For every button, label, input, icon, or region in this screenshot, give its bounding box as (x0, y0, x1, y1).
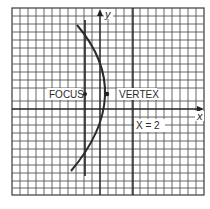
vertex-point (105, 92, 109, 96)
focus-label: FOCUS (49, 89, 84, 100)
vertex-label: VERTEX (119, 89, 159, 100)
x-axis-label: x (196, 110, 203, 122)
parabola-diagram: FOCUS VERTEX X = 2 y x (0, 0, 210, 209)
equation-label: X = 2 (136, 120, 160, 131)
